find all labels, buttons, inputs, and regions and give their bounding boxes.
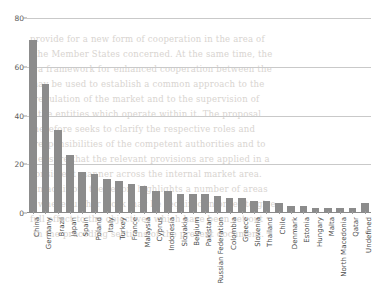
x-label-cell: Hungary: [309, 215, 321, 299]
bar-cell: [150, 18, 162, 213]
x-tick-mark: [33, 211, 34, 214]
bar-indonesia[interactable]: [164, 191, 172, 213]
y-tick-label-80: 80: [0, 14, 24, 23]
x-label-cell: Slovakia: [174, 215, 186, 299]
x-tick-mark: [316, 211, 317, 214]
x-tick-mark: [365, 211, 366, 214]
x-tick-mark: [340, 211, 341, 214]
bar-cell: [138, 18, 150, 213]
bar-cell: [113, 18, 125, 213]
x-tick-mark: [58, 211, 59, 214]
bar-cell: [334, 18, 346, 213]
x-label-cell: Undefined: [359, 215, 371, 299]
x-tick-mark: [131, 211, 132, 214]
bar-france[interactable]: [128, 184, 136, 213]
bar-turkey[interactable]: [115, 181, 123, 213]
x-label-cell: Malta: [322, 215, 334, 299]
bar-cell: [322, 18, 334, 213]
x-tick-label-undefined: Undefined: [365, 217, 373, 253]
x-label-cell: Belgium: [187, 215, 199, 299]
x-tick-mark: [168, 211, 169, 214]
bar-cell: [187, 18, 199, 213]
bar-cell: [101, 18, 113, 213]
bar-cell: [285, 18, 297, 213]
y-tick-label-0: 0: [0, 209, 24, 218]
x-tick-mark: [217, 211, 218, 214]
x-label-cell: Pakistan: [199, 215, 211, 299]
x-label-cell: Russian Federation: [211, 215, 223, 299]
bar-cell: [125, 18, 137, 213]
x-tick-mark: [156, 211, 157, 214]
bar-cell: [52, 18, 64, 213]
x-tick-mark: [45, 211, 46, 214]
y-tick-label-60: 60: [0, 62, 24, 71]
bar-cell: [224, 18, 236, 213]
bar-cell: [236, 18, 248, 213]
x-label-cell: Denmark: [285, 215, 297, 299]
x-tick-mark: [144, 211, 145, 214]
x-label-cell: Malaysia: [138, 215, 150, 299]
x-label-cell: Germany: [39, 215, 51, 299]
x-label-cell: Estonia: [297, 215, 309, 299]
bar-series: [27, 18, 371, 213]
x-label-cell: Slovenia: [248, 215, 260, 299]
bar-japan[interactable]: [66, 155, 74, 214]
bar-cell: [27, 18, 39, 213]
x-tick-mark: [230, 211, 231, 214]
x-tick-mark: [279, 211, 280, 214]
bar-cell: [76, 18, 88, 213]
bar-germany[interactable]: [42, 84, 50, 213]
x-tick-mark: [205, 211, 206, 214]
x-label-cell: Greece: [236, 215, 248, 299]
bar-cell: [346, 18, 358, 213]
x-label-cell: France: [125, 215, 137, 299]
bar-brazil[interactable]: [54, 130, 62, 213]
x-tick-mark: [107, 211, 108, 214]
x-label-cell: Qatar: [346, 215, 358, 299]
x-label-cell: Italy: [101, 215, 113, 299]
y-tick-label-40: 40: [0, 111, 24, 120]
bar-cell: [174, 18, 186, 213]
bar-poland[interactable]: [91, 174, 99, 213]
x-tick-mark: [193, 211, 194, 214]
bar-china[interactable]: [29, 40, 37, 213]
x-label-cell: Colombia: [224, 215, 236, 299]
x-tick-mark: [95, 211, 96, 214]
x-label-cell: Spain: [76, 215, 88, 299]
x-label-cell: Brazil: [52, 215, 64, 299]
x-axis-line: [27, 212, 371, 213]
bar-cell: [39, 18, 51, 213]
x-label-cell: Turkey: [113, 215, 125, 299]
x-label-cell: China: [27, 215, 39, 299]
x-tick-mark: [181, 211, 182, 214]
x-label-cell: Cyprus: [150, 215, 162, 299]
x-axis-labels: ChinaGermanyBrazilJapanSpainPolandItalyT…: [27, 215, 371, 299]
bar-cell: [297, 18, 309, 213]
bar-cell: [359, 18, 371, 213]
x-tick-mark: [328, 211, 329, 214]
x-tick-mark: [291, 211, 292, 214]
bar-cyprus[interactable]: [152, 191, 160, 213]
x-label-cell: Indonesia: [162, 215, 174, 299]
plot-area: [27, 18, 371, 213]
bar-malaysia[interactable]: [140, 186, 148, 213]
bar-cell: [88, 18, 100, 213]
bar-spain[interactable]: [78, 172, 86, 213]
bar-cell: [309, 18, 321, 213]
bar-italy[interactable]: [103, 179, 111, 213]
y-tick-label-20: 20: [0, 160, 24, 169]
bar-chart: provide for a new form of cooperation in…: [0, 0, 380, 301]
bar-cell: [273, 18, 285, 213]
x-tick-mark: [303, 211, 304, 214]
bar-cell: [211, 18, 223, 213]
x-label-cell: Chile: [273, 215, 285, 299]
x-label-cell: North Macedonia: [334, 215, 346, 299]
x-tick-mark: [70, 211, 71, 214]
bar-cell: [199, 18, 211, 213]
bar-cell: [248, 18, 260, 213]
bar-cell: [260, 18, 272, 213]
bar-cell: [162, 18, 174, 213]
x-tick-mark: [242, 211, 243, 214]
x-label-cell: Japan: [64, 215, 76, 299]
x-tick-mark: [119, 211, 120, 214]
